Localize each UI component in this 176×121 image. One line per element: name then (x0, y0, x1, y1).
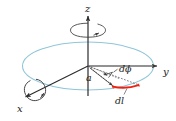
differential-angle-label: dϕ (119, 64, 132, 74)
z-axis-label: z (85, 4, 90, 14)
dl-leader-line (124, 89, 127, 95)
y-axis-label: y (163, 67, 169, 77)
differential-length-label: dl (115, 96, 124, 106)
dl-end-tick (138, 84, 139, 87)
coordinate-diagram-svg (0, 0, 176, 121)
dphi-guide-ray (88, 66, 120, 79)
x-axis-line (26, 66, 89, 97)
dphi-leader-line (114, 69, 118, 72)
figure-canvas: z y x a dϕ dl (0, 0, 176, 121)
x-axis-label: x (17, 104, 23, 114)
loop-radius-label: a (86, 73, 92, 83)
